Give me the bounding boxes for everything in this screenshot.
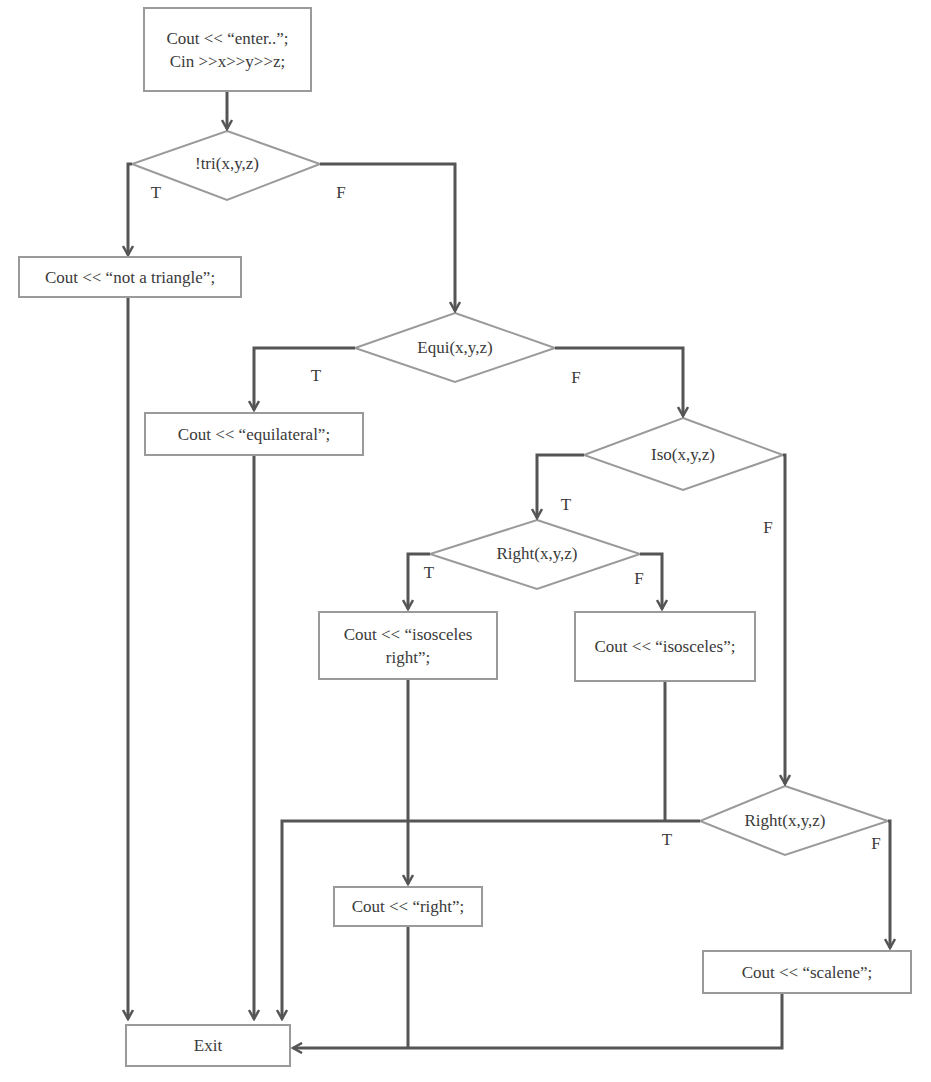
exit-box: Exit [125, 1024, 291, 1067]
scalene-box: Cout << “scalene”; [702, 950, 912, 994]
equilateral-box: Cout << “equilateral”; [144, 412, 364, 456]
not-tri-label: !tri(x,y,z) [195, 154, 259, 174]
equi-label: Equi(x,y,z) [417, 338, 492, 358]
not-triangle-label: Cout << “not a triangle”; [45, 266, 215, 289]
edge-iso-false [783, 455, 785, 784]
input-line-1: Cout << “enter..”; [166, 27, 288, 50]
iso-label: Iso(x,y,z) [651, 445, 715, 465]
right-scalene-label: Right(x,y,z) [744, 811, 825, 831]
not-tri-true-label: T [151, 183, 161, 203]
equilateral-label: Cout << “equilateral”; [178, 423, 330, 446]
iso-true-label: T [561, 495, 571, 515]
right-scalene-true-label: T [662, 830, 672, 850]
isosceles-right-line-2: right”; [386, 646, 430, 669]
not-triangle-box: Cout << “not a triangle”; [18, 256, 242, 298]
right-scalene-false-label: F [871, 834, 880, 854]
isosceles-right-line-1: Cout << “isosceles [344, 623, 473, 646]
iso-false-label: F [763, 518, 772, 538]
right-box: Cout << “right”; [333, 886, 483, 927]
input-line-2: Cin >>x>>y>>z; [170, 50, 286, 73]
isosceles-box: Cout << “isosceles”; [574, 611, 756, 682]
scalene-label: Cout << “scalene”; [742, 961, 873, 984]
equi-true-label: T [311, 366, 321, 386]
edge-not-tri-true [128, 164, 132, 255]
right-label: Cout << “right”; [352, 895, 465, 918]
right-iso-label: Right(x,y,z) [496, 544, 577, 564]
right-iso-false-label: F [634, 569, 643, 589]
isosceles-right-box: Cout << “isosceles right”; [318, 611, 498, 680]
edge-right-scalene-false [888, 821, 890, 948]
edge-equi-true [254, 348, 355, 410]
exit-label: Exit [194, 1034, 222, 1057]
isosceles-label: Cout << “isosceles”; [595, 635, 736, 658]
equi-false-label: F [571, 368, 580, 388]
right-iso-true-label: T [424, 563, 434, 583]
not-tri-false-label: F [336, 183, 345, 203]
input-box: Cout << “enter..”; Cin >>x>>y>>z; [143, 7, 312, 92]
edge-scalene-to-exit [293, 994, 782, 1048]
